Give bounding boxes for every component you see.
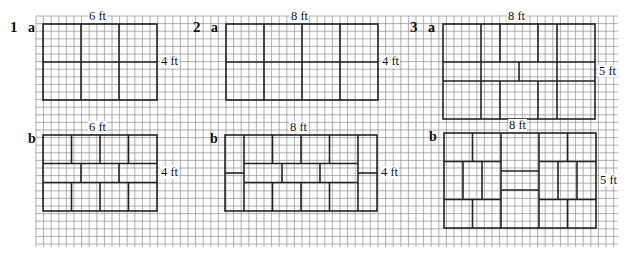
diagram-2b [225,135,377,211]
width-label: 6 ft [88,10,107,23]
problem-number: 1 [10,20,18,35]
height-label: 4 ft [381,55,400,68]
problem-number: 3 [410,20,418,35]
problem-number: 2 [193,20,201,35]
width-label: 8 ft [508,119,527,132]
part-label: b [210,132,218,146]
height-label: 4 ft [160,55,179,68]
diagram-1a [43,24,157,100]
part-label: a [28,21,35,35]
width-label: 8 ft [289,121,308,134]
height-label: 4 ft [380,166,399,179]
height-label: 4 ft [160,166,179,179]
width-label: 8 ft [507,10,526,23]
part-label: b [28,132,36,146]
diagram-1b [43,135,157,211]
height-label: 5 ft [598,65,617,78]
grid-lines [36,16,618,247]
diagram-3a [443,24,595,119]
part-label: b [429,130,437,144]
part-label: a [211,21,218,35]
width-label: 6 ft [88,121,107,134]
height-label: 5 ft [599,174,618,187]
width-label: 8 ft [290,10,309,23]
part-label: a [428,21,435,35]
